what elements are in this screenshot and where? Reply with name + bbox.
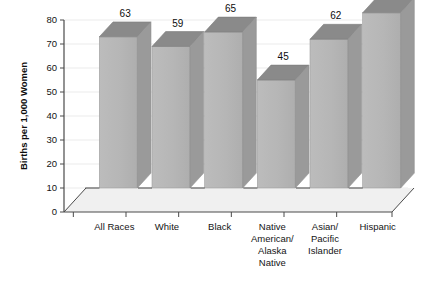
y-tick-label: 50 <box>46 86 57 97</box>
bar-column <box>363 0 415 188</box>
bar-value-label: 63 <box>120 8 132 19</box>
x-category-label-line: Islander <box>308 245 342 256</box>
x-category-label: Hispanic <box>359 221 396 232</box>
x-category-label-line: Asian/ <box>312 221 339 232</box>
y-tick-labels: 01020304050607080 <box>46 14 57 217</box>
y-tick-label: 20 <box>46 158 57 169</box>
y-tick-label: 80 <box>46 14 57 25</box>
chart-canvas: 01020304050607080 All RacesWhiteBlackNat… <box>0 0 436 287</box>
y-tick-label: 60 <box>46 62 57 73</box>
y-tick-label: 70 <box>46 38 57 49</box>
x-category-label-line: White <box>155 221 179 232</box>
bar-side-face <box>137 22 151 188</box>
bar-front-face <box>205 32 243 188</box>
bar-front-face <box>152 46 190 188</box>
bar-value-label: 65 <box>225 3 237 14</box>
y-tick-label: 10 <box>46 182 57 193</box>
floor-plane <box>64 188 414 212</box>
x-category-label-line: American/ <box>251 233 294 244</box>
bar-side-face <box>190 32 204 188</box>
x-category-label-line: All Races <box>94 221 134 232</box>
bar-column <box>257 65 309 188</box>
y-tick-label: 30 <box>46 134 57 145</box>
bar-value-label: 59 <box>172 18 184 29</box>
x-category-label-line: Native <box>259 221 286 232</box>
bar-column <box>152 32 204 188</box>
bar-column <box>310 24 362 188</box>
x-category-label-line: Alaska <box>258 245 287 256</box>
x-category-label-line: Pacific <box>311 233 339 244</box>
bar-value-label: 45 <box>278 51 290 62</box>
x-category-label: White <box>155 221 179 232</box>
bar-value-label: 62 <box>330 10 342 21</box>
x-category-label-line: Hispanic <box>359 221 396 232</box>
y-tick-label: 40 <box>46 110 57 121</box>
bar-chart: 01020304050607080 All RacesWhiteBlackNat… <box>0 0 436 287</box>
bar-side-face <box>348 24 362 188</box>
bar-front-face <box>257 80 295 188</box>
chart-floor <box>64 188 414 212</box>
x-category-label: Asian/PacificIslander <box>308 221 342 256</box>
bar-side-face <box>243 17 257 188</box>
bar-side-face <box>295 65 309 188</box>
y-tick-label: 0 <box>52 206 57 217</box>
y-axis-title-group: Births per 1,000 Women <box>18 62 29 170</box>
x-category-label: All Races <box>94 221 134 232</box>
bar-front-face <box>363 13 401 188</box>
x-category-label-line: Native <box>259 257 286 268</box>
bar-side-face <box>401 0 415 188</box>
x-category-label-line: Black <box>208 221 231 232</box>
y-axis-title: Births per 1,000 Women <box>18 62 29 170</box>
bar-column <box>99 22 151 188</box>
bar-front-face <box>310 39 348 188</box>
bar-front-face <box>99 37 137 188</box>
x-category-label: Black <box>208 221 231 232</box>
bar-column <box>205 17 257 188</box>
